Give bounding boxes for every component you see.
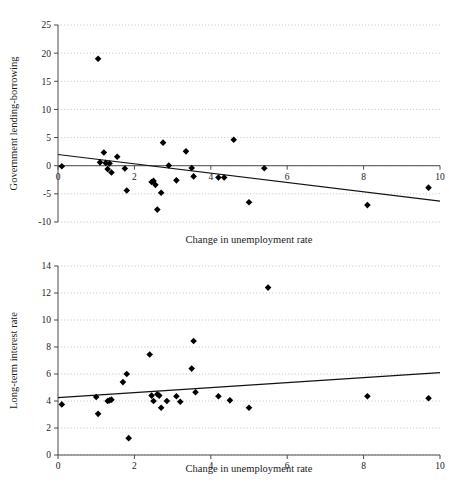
- data-point: [246, 404, 253, 411]
- y-tick-label: 25: [42, 20, 52, 30]
- x-tick-label: 2: [132, 461, 137, 471]
- y-tick-label: 14: [42, 261, 52, 271]
- data-point: [148, 392, 155, 399]
- y-tick-label: 12: [42, 288, 52, 298]
- data-point: [123, 371, 130, 378]
- y-axis-title: Long-term interest rate: [8, 312, 19, 409]
- y-tick-label: 8: [46, 342, 51, 352]
- y-tick-label: 10: [42, 315, 52, 325]
- data-point: [114, 153, 121, 160]
- chart-long-term-interest-rate: 024681012140246810Change in unemployment…: [0, 250, 449, 499]
- scatter-plot-top: -10-505101520250246810Change in unemploy…: [0, 0, 449, 250]
- data-point: [173, 177, 180, 184]
- x-tick-label: 0: [56, 461, 61, 471]
- data-point: [425, 184, 432, 191]
- data-point: [59, 401, 66, 408]
- scatter-plot-bottom: 024681012140246810Change in unemployment…: [0, 250, 449, 499]
- data-point: [123, 187, 130, 194]
- x-axis-title: Change in unemployment rate: [186, 463, 313, 474]
- data-point: [265, 284, 272, 291]
- data-point: [59, 163, 66, 170]
- y-tick-label: -10: [38, 217, 51, 227]
- data-point: [215, 174, 222, 181]
- y-tick-label: 6: [46, 369, 51, 379]
- data-point: [101, 149, 108, 156]
- x-tick-label: 10: [435, 461, 445, 471]
- data-point: [188, 365, 195, 372]
- data-point: [190, 338, 197, 345]
- y-tick-label: 20: [42, 49, 52, 59]
- data-point: [95, 55, 102, 62]
- data-point: [190, 173, 197, 180]
- chart-government-lending-borrowing: -10-505101520250246810Change in unemploy…: [0, 0, 449, 250]
- data-point: [164, 398, 171, 405]
- data-point: [154, 206, 161, 213]
- x-tick-label: 2: [132, 172, 137, 182]
- x-tick-label: 6: [285, 172, 290, 182]
- x-tick-label: 8: [361, 172, 366, 182]
- data-point: [246, 199, 253, 206]
- y-tick-label: -5: [43, 189, 51, 199]
- trend-line: [58, 154, 440, 201]
- x-tick-label: 0: [56, 172, 61, 182]
- data-point: [150, 398, 157, 405]
- data-point: [160, 139, 167, 146]
- data-point: [177, 398, 184, 405]
- y-tick-label: 5: [46, 133, 51, 143]
- data-point: [95, 411, 102, 418]
- data-point: [364, 202, 371, 209]
- y-tick-label: 0: [46, 450, 51, 460]
- x-axis-title: Change in unemployment rate: [186, 234, 313, 245]
- data-point: [364, 393, 371, 400]
- y-axis-title: Government lending-borrowing: [8, 56, 19, 191]
- data-point: [146, 351, 153, 358]
- y-tick-label: 2: [46, 423, 51, 433]
- y-tick-label: 0: [46, 161, 51, 171]
- data-point: [125, 435, 132, 442]
- data-point: [158, 189, 165, 196]
- data-point: [122, 165, 129, 172]
- data-point: [120, 379, 127, 386]
- trend-line: [58, 373, 440, 398]
- y-tick-label: 10: [42, 105, 52, 115]
- y-tick-label: 15: [42, 77, 52, 87]
- data-point: [192, 389, 199, 396]
- data-point: [173, 393, 180, 400]
- data-point: [183, 148, 190, 155]
- x-tick-label: 10: [435, 172, 445, 182]
- data-point: [215, 393, 222, 400]
- x-tick-label: 8: [361, 461, 366, 471]
- data-point: [227, 397, 234, 404]
- data-point: [158, 404, 165, 411]
- y-tick-label: 4: [46, 396, 51, 406]
